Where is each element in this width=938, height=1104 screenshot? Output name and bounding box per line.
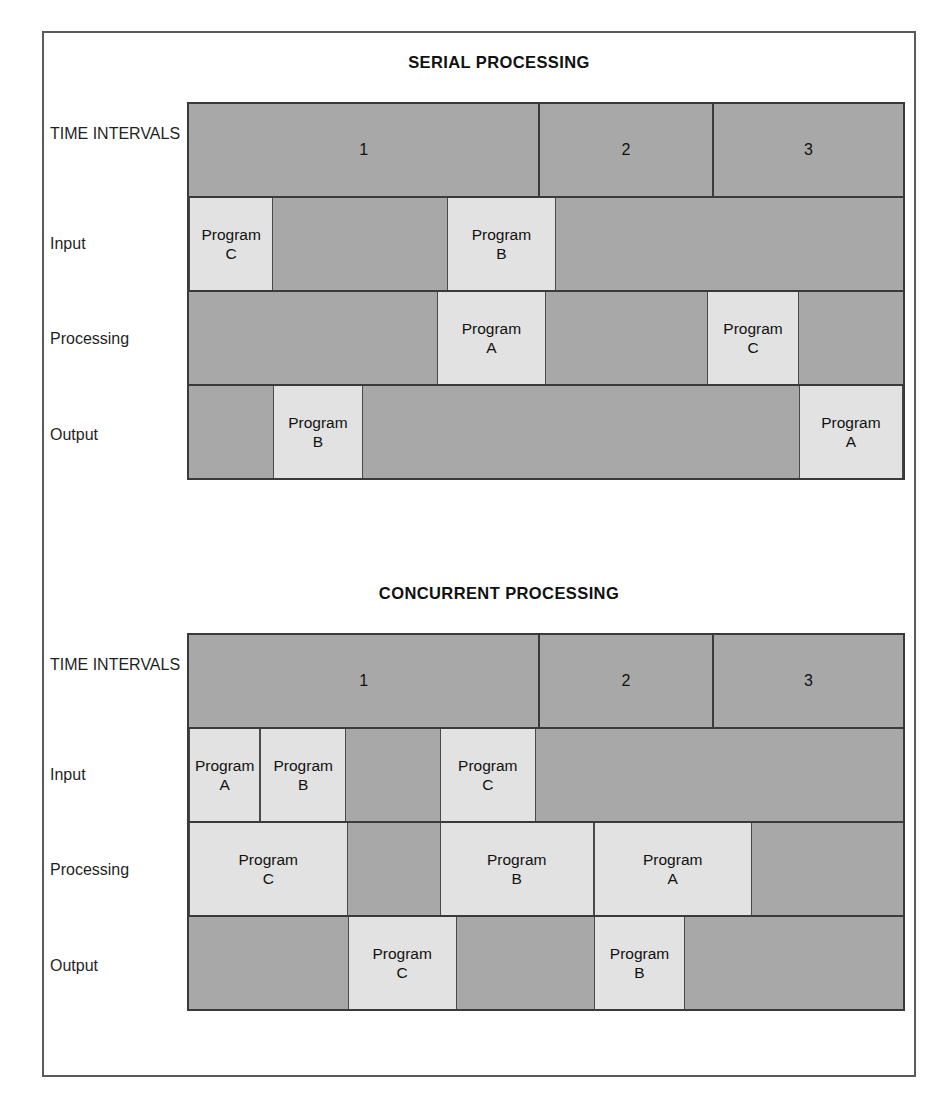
program-block-c: ProgramC	[707, 292, 798, 384]
program-block-c: ProgramC	[189, 823, 348, 915]
program-block-c: ProgramC	[189, 198, 273, 290]
figure-frame: SERIAL PROCESSING TIME INTERVALS Input P…	[42, 31, 916, 1077]
program-block-line2: C	[397, 963, 408, 982]
program-block-b: ProgramB	[594, 917, 685, 1009]
time-interval-label: 3	[804, 141, 813, 159]
program-block-line1: Program	[723, 319, 782, 338]
program-block-line2: A	[846, 432, 856, 451]
program-block-line2: C	[747, 338, 758, 357]
row-label-time-intervals-line1: TIME	[50, 125, 88, 142]
grid-row-input: ProgramAProgramBProgramC	[189, 729, 903, 823]
program-block-line1: Program	[821, 413, 880, 432]
program-block-b: ProgramB	[260, 729, 346, 821]
program-block-b: ProgramB	[440, 823, 594, 915]
program-block-b: ProgramB	[447, 198, 556, 290]
program-block-line1: Program	[288, 413, 347, 432]
chart-serial-processing: SERIAL PROCESSING TIME INTERVALS Input P…	[44, 51, 914, 480]
program-block-line1: Program	[274, 756, 333, 775]
time-interval-label: 2	[622, 141, 631, 159]
row-label-time-intervals-line1: TIME	[50, 656, 88, 673]
program-block-line1: Program	[462, 319, 521, 338]
time-interval-cell-1: 1	[189, 104, 540, 196]
time-interval-cell-1: 1	[189, 635, 540, 727]
grid-row-time-intervals: 123	[189, 104, 903, 198]
time-interval-label: 2	[622, 672, 631, 690]
program-block-line2: A	[486, 338, 496, 357]
grid-concurrent: 123 ProgramAProgramBProgramC ProgramCPro…	[187, 633, 905, 1011]
program-block-line2: C	[263, 869, 274, 888]
program-block-line2: B	[512, 869, 522, 888]
grid-row-processing: ProgramCProgramBProgramA	[189, 823, 903, 917]
row-labels-serial: TIME INTERVALS Input Processing Output	[44, 102, 187, 480]
time-interval-label: 1	[359, 141, 368, 159]
time-interval-cell-2: 2	[540, 104, 714, 196]
program-block-line1: Program	[201, 225, 260, 244]
row-label-processing: Processing	[50, 859, 190, 880]
program-block-a: ProgramA	[189, 729, 260, 821]
time-interval-label: 3	[804, 672, 813, 690]
program-block-line2: B	[496, 244, 506, 263]
chart-concurrent-processing: CONCURRENT PROCESSING TIME INTERVALS Inp…	[44, 582, 914, 1011]
program-block-line1: Program	[487, 850, 546, 869]
program-block-line1: Program	[458, 756, 517, 775]
row-label-output: Output	[50, 424, 190, 445]
program-block-c: ProgramC	[440, 729, 536, 821]
row-label-processing: Processing	[50, 328, 190, 349]
chart-body-concurrent: TIME INTERVALS Input Processing Output 1…	[44, 633, 914, 1011]
program-block-b: ProgramB	[273, 386, 362, 478]
program-block-line2: C	[226, 244, 237, 263]
grid-row-processing: ProgramAProgramC	[189, 292, 903, 386]
program-block-line1: Program	[610, 944, 669, 963]
program-block-line1: Program	[372, 944, 431, 963]
chart-body-serial: TIME INTERVALS Input Processing Output 1…	[44, 102, 914, 480]
grid-serial: 123 ProgramCProgramB ProgramAProgramC Pr…	[187, 102, 905, 480]
program-block-line2: B	[298, 775, 308, 794]
program-block-line1: Program	[643, 850, 702, 869]
program-block-c: ProgramC	[348, 917, 457, 1009]
time-interval-label: 1	[359, 672, 368, 690]
program-block-line2: C	[482, 775, 493, 794]
program-block-line2: B	[634, 963, 644, 982]
chart-title-serial: SERIAL PROCESSING	[44, 51, 914, 73]
time-interval-cell-3: 3	[714, 104, 903, 196]
program-block-line1: Program	[472, 225, 531, 244]
program-block-line1: Program	[239, 850, 298, 869]
grid-row-time-intervals: 123	[189, 635, 903, 729]
grid-row-output: ProgramBProgramA	[189, 386, 903, 478]
program-block-line2: A	[220, 775, 230, 794]
chart-title-concurrent: CONCURRENT PROCESSING	[44, 582, 914, 604]
time-interval-cell-3: 3	[714, 635, 903, 727]
time-interval-cell-2: 2	[540, 635, 714, 727]
row-label-output: Output	[50, 955, 190, 976]
program-block-a: ProgramA	[437, 292, 546, 384]
grid-row-input: ProgramCProgramB	[189, 198, 903, 292]
program-block-line2: B	[313, 432, 323, 451]
program-block-a: ProgramA	[594, 823, 752, 915]
program-block-a: ProgramA	[799, 386, 903, 478]
row-labels-concurrent: TIME INTERVALS Input Processing Output	[44, 633, 187, 1011]
program-block-line2: A	[668, 869, 678, 888]
program-block-line1: Program	[195, 756, 254, 775]
row-label-time-intervals-line2: INTERVALS	[93, 656, 180, 673]
row-label-time-intervals-line2: INTERVALS	[93, 125, 180, 142]
row-label-input: Input	[50, 764, 190, 785]
row-label-time-intervals: TIME INTERVALS	[50, 654, 190, 675]
row-label-input: Input	[50, 233, 190, 254]
row-label-time-intervals: TIME INTERVALS	[50, 123, 190, 144]
grid-row-output: ProgramCProgramB	[189, 917, 903, 1009]
